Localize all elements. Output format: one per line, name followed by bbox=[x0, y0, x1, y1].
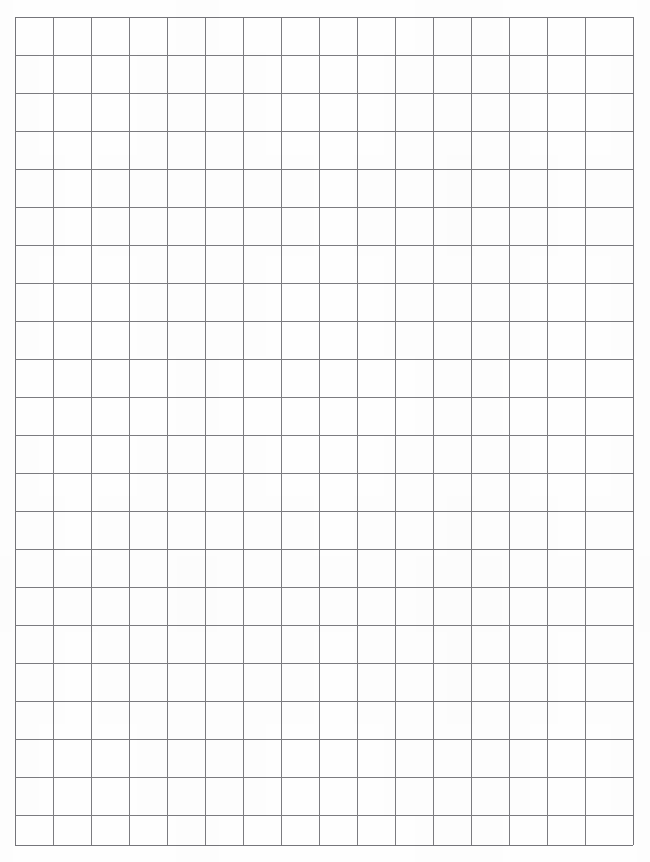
grid-cell[interactable] bbox=[547, 701, 585, 739]
grid-cell[interactable] bbox=[509, 245, 547, 283]
grid-cell[interactable] bbox=[281, 625, 319, 663]
grid-cell[interactable] bbox=[509, 473, 547, 511]
grid-cell[interactable] bbox=[357, 131, 395, 169]
grid-cell[interactable] bbox=[357, 207, 395, 245]
grid-cell[interactable] bbox=[357, 511, 395, 549]
grid-cell[interactable] bbox=[129, 93, 167, 131]
grid-cell[interactable] bbox=[547, 359, 585, 397]
grid-cell[interactable] bbox=[53, 701, 91, 739]
grid-cell[interactable] bbox=[53, 739, 91, 777]
grid-cell[interactable] bbox=[167, 397, 205, 435]
grid-cell[interactable] bbox=[15, 321, 53, 359]
grid-cell[interactable] bbox=[433, 435, 471, 473]
grid-cell[interactable] bbox=[509, 511, 547, 549]
grid-cell[interactable] bbox=[91, 207, 129, 245]
grid-cell[interactable] bbox=[129, 587, 167, 625]
grid-cell[interactable] bbox=[53, 245, 91, 283]
grid-cell[interactable] bbox=[357, 435, 395, 473]
grid-cell[interactable] bbox=[585, 245, 633, 283]
grid-cell[interactable] bbox=[53, 511, 91, 549]
grid-cell[interactable] bbox=[585, 663, 633, 701]
grid-cell[interactable] bbox=[319, 549, 357, 587]
grid-cell[interactable] bbox=[357, 93, 395, 131]
grid-cell[interactable] bbox=[243, 169, 281, 207]
grid-cell[interactable] bbox=[471, 245, 509, 283]
grid-cell[interactable] bbox=[205, 815, 243, 845]
grid-cell[interactable] bbox=[357, 663, 395, 701]
grid-cell[interactable] bbox=[205, 511, 243, 549]
grid-cell[interactable] bbox=[585, 207, 633, 245]
grid-cell[interactable] bbox=[547, 777, 585, 815]
grid-cell[interactable] bbox=[395, 701, 433, 739]
grid-cell[interactable] bbox=[53, 435, 91, 473]
grid-cell[interactable] bbox=[509, 625, 547, 663]
grid-cell[interactable] bbox=[585, 17, 633, 55]
grid-cell[interactable] bbox=[129, 473, 167, 511]
grid-cell[interactable] bbox=[471, 663, 509, 701]
grid-cell[interactable] bbox=[281, 815, 319, 845]
grid-cell[interactable] bbox=[585, 473, 633, 511]
grid-cell[interactable] bbox=[357, 815, 395, 845]
grid-cell[interactable] bbox=[281, 283, 319, 321]
grid-cell[interactable] bbox=[53, 549, 91, 587]
grid-cell[interactable] bbox=[319, 93, 357, 131]
grid-cell[interactable] bbox=[395, 245, 433, 283]
grid-cell[interactable] bbox=[509, 739, 547, 777]
grid-cell[interactable] bbox=[129, 169, 167, 207]
grid-cell[interactable] bbox=[319, 739, 357, 777]
grid-cell[interactable] bbox=[15, 473, 53, 511]
grid-cell[interactable] bbox=[471, 207, 509, 245]
grid-cell[interactable] bbox=[53, 587, 91, 625]
grid-cell[interactable] bbox=[15, 17, 53, 55]
grid-cell[interactable] bbox=[357, 169, 395, 207]
grid-cell[interactable] bbox=[129, 777, 167, 815]
grid-cell[interactable] bbox=[433, 815, 471, 845]
grid-cell[interactable] bbox=[395, 739, 433, 777]
grid-cell[interactable] bbox=[471, 625, 509, 663]
grid-cell[interactable] bbox=[433, 321, 471, 359]
grid-cell[interactable] bbox=[53, 777, 91, 815]
grid-cell[interactable] bbox=[167, 283, 205, 321]
grid-cell[interactable] bbox=[433, 283, 471, 321]
grid-cell[interactable] bbox=[471, 777, 509, 815]
grid-cell[interactable] bbox=[243, 397, 281, 435]
grid-cell[interactable] bbox=[53, 207, 91, 245]
grid-cell[interactable] bbox=[167, 473, 205, 511]
grid-cell[interactable] bbox=[471, 17, 509, 55]
grid-cell[interactable] bbox=[585, 359, 633, 397]
grid-cell[interactable] bbox=[129, 815, 167, 845]
grid-cell[interactable] bbox=[281, 93, 319, 131]
grid-cell[interactable] bbox=[15, 169, 53, 207]
grid-cell[interactable] bbox=[167, 625, 205, 663]
grid-cell[interactable] bbox=[357, 625, 395, 663]
grid-cell[interactable] bbox=[129, 435, 167, 473]
grid-cell[interactable] bbox=[547, 93, 585, 131]
grid-cell[interactable] bbox=[53, 815, 91, 845]
grid-cell[interactable] bbox=[205, 587, 243, 625]
grid-cell[interactable] bbox=[433, 625, 471, 663]
grid-cell[interactable] bbox=[471, 473, 509, 511]
grid-cell[interactable] bbox=[433, 663, 471, 701]
grid-cell[interactable] bbox=[243, 663, 281, 701]
grid-cell[interactable] bbox=[319, 55, 357, 93]
grid-cell[interactable] bbox=[91, 245, 129, 283]
grid-cell[interactable] bbox=[281, 739, 319, 777]
grid-cell[interactable] bbox=[91, 321, 129, 359]
grid-cell[interactable] bbox=[319, 663, 357, 701]
grid-cell[interactable] bbox=[167, 207, 205, 245]
grid-cell[interactable] bbox=[319, 283, 357, 321]
grid-cell[interactable] bbox=[585, 739, 633, 777]
grid-cell[interactable] bbox=[15, 739, 53, 777]
grid-cell[interactable] bbox=[395, 777, 433, 815]
grid-cell[interactable] bbox=[433, 777, 471, 815]
grid-cell[interactable] bbox=[471, 131, 509, 169]
grid-cell[interactable] bbox=[547, 169, 585, 207]
grid-cell[interactable] bbox=[433, 701, 471, 739]
grid-cell[interactable] bbox=[357, 359, 395, 397]
grid-cell[interactable] bbox=[585, 701, 633, 739]
grid-cell[interactable] bbox=[53, 17, 91, 55]
grid-cell[interactable] bbox=[53, 93, 91, 131]
grid-cell[interactable] bbox=[547, 473, 585, 511]
grid-cell[interactable] bbox=[585, 625, 633, 663]
grid-cell[interactable] bbox=[509, 777, 547, 815]
